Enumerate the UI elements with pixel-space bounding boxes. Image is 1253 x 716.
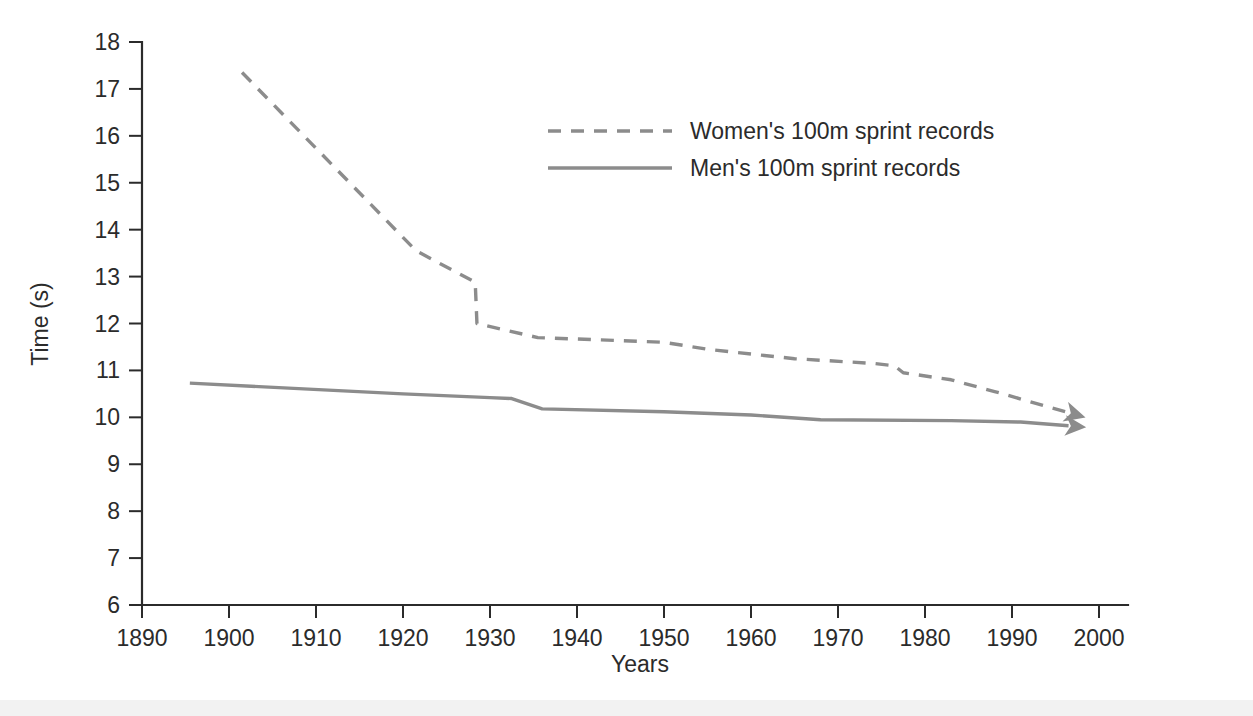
y-tick-label: 8 <box>107 498 120 524</box>
x-tick-label: 2000 <box>1073 625 1124 651</box>
x-tick-label: 1900 <box>203 625 254 651</box>
y-tick-label: 9 <box>107 451 120 477</box>
y-tick-label: 18 <box>94 29 120 55</box>
x-tick-label: 1930 <box>464 625 515 651</box>
y-tick-label: 16 <box>94 123 120 149</box>
x-tick-label: 1970 <box>812 625 863 651</box>
y-axis-ticks: 6789101112131415161718 <box>94 29 142 618</box>
x-tick-label: 1950 <box>638 625 689 651</box>
x-tick-label: 1920 <box>377 625 428 651</box>
y-tick-label: 17 <box>94 76 120 102</box>
figure-canvas: 6789101112131415161718 18901900191019201… <box>0 0 1253 716</box>
y-axis-title: Time (s) <box>27 282 53 365</box>
x-tick-label: 1990 <box>986 625 1037 651</box>
legend-label-men: Men's 100m sprint records <box>690 155 960 181</box>
x-tick-label: 1940 <box>551 625 602 651</box>
y-tick-label: 15 <box>94 170 120 196</box>
y-tick-label: 10 <box>94 404 120 430</box>
x-tick-label: 1910 <box>290 625 341 651</box>
y-tick-label: 14 <box>94 217 120 243</box>
y-tick-label: 13 <box>94 264 120 290</box>
y-tick-label: 6 <box>107 592 120 618</box>
x-tick-label: 1890 <box>116 625 167 651</box>
page-edge-band <box>0 700 1253 716</box>
y-tick-label: 11 <box>96 357 120 383</box>
legend-label-women: Women's 100m sprint records <box>690 118 994 144</box>
y-tick-label: 12 <box>94 311 120 337</box>
x-axis-title: Years <box>611 651 669 677</box>
x-axis-ticks: 1890190019101920193019401950196019701980… <box>116 605 1124 651</box>
x-tick-label: 1980 <box>899 625 950 651</box>
y-tick-label: 7 <box>107 545 120 571</box>
x-tick-label: 1960 <box>725 625 776 651</box>
line-chart: 6789101112131415161718 18901900191019201… <box>0 0 1253 716</box>
